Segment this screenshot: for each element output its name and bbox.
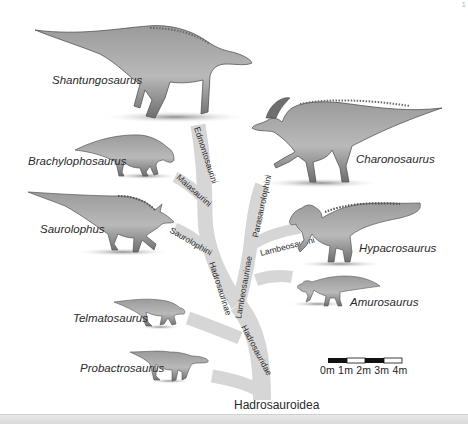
root-label-hadrosauroidea: Hadrosauroidea (234, 398, 319, 412)
charonosaurus-illustration (252, 98, 442, 188)
taxon-label-hypacrosaurus: Hypacrosaurus (359, 242, 436, 254)
taxon-label-probactrosaurus: Probactrosaurus (80, 362, 164, 374)
taxon-label-charonosaurus: Charonosaurus (356, 153, 435, 165)
clade-labels: Edmontosaurini Maiasaurini Saurolophini … (168, 126, 316, 378)
taxon-label-shantungosaurus: Shantungosaurus (52, 74, 142, 86)
hadrosaur-phylogeny-diagram: Edmontosaurini Maiasaurini Saurolophini … (0, 0, 468, 424)
scale-bar (328, 358, 402, 363)
taxon-label-brachylophosaurus: Brachylophosaurus (28, 155, 126, 167)
taxon-label-amurosaurus: Amurosaurus (350, 296, 418, 308)
phylogeny-tree: Edmontosaurini Maiasaurini Saurolophini … (0, 0, 468, 424)
scale-bar-labels: 0m 1m 2m 3m 4m (320, 364, 407, 376)
bottom-edge-strip (0, 414, 468, 424)
taxon-label-telmatosaurus: Telmatosaurus (73, 312, 148, 324)
taxon-label-saurolophus: Saurolophus (40, 223, 105, 235)
page-marker: 1 (462, 0, 466, 9)
hypacrosaurus-illustration (289, 203, 420, 268)
